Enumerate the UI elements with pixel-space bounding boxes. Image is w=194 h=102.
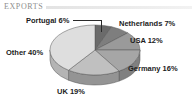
portugal-leader-line-horizontal [73,20,102,21]
slice-label-other: Other 40% [6,48,43,57]
pie-slice-tops [50,25,140,75]
pie-chart: Portugal 6% Netherlands 7% USA 12% Germa… [0,11,194,102]
slice-label-portugal: Portugal 6% [26,16,69,25]
slice-label-netherlands: Netherlands 7% [119,19,175,28]
slice-label-germany: Germany 16% [128,64,178,73]
pie-graphic [49,23,141,85]
slice-label-uk: UK 19% [57,87,85,96]
slice-label-usa: USA 12% [130,36,163,45]
header-divider [46,6,192,9]
chart-page: EXPORTS Portugal 6% Netherlands 7% USA 1… [0,0,194,102]
pie-svg [49,23,141,85]
portugal-leader-line-vertical [101,20,102,32]
